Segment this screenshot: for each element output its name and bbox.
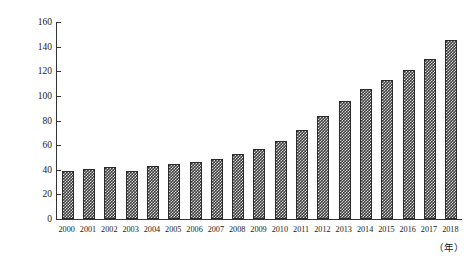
bar <box>339 101 351 219</box>
bar <box>403 70 415 219</box>
y-tick-label: 100 <box>23 90 57 102</box>
bar <box>317 116 329 219</box>
x-tick-label: 2018 <box>433 224 467 236</box>
y-tick-label: 40 <box>23 164 57 176</box>
bar <box>296 130 308 219</box>
y-tick-label: 140 <box>23 41 57 53</box>
bar-slot <box>377 22 398 219</box>
bar <box>147 166 159 219</box>
bar-slot <box>142 22 163 219</box>
bar <box>275 141 287 219</box>
y-tick-label: 20 <box>23 188 57 200</box>
bar <box>83 169 95 219</box>
bar-slot <box>441 22 462 219</box>
bar-slot <box>334 22 355 219</box>
bar <box>62 171 74 219</box>
y-tick-label: 160 <box>23 16 57 28</box>
y-tick-label: 80 <box>23 115 57 127</box>
y-tick-label: 60 <box>23 139 57 151</box>
bars-layer <box>57 22 462 219</box>
agricultural-output-bar-chart: 农业总产值（亿元） 020406080100120140160 20002001… <box>0 0 474 266</box>
bar-slot <box>185 22 206 219</box>
bar-slot <box>355 22 376 219</box>
bar-slot <box>313 22 334 219</box>
bar <box>360 89 372 220</box>
bar-slot <box>291 22 312 219</box>
bar-slot <box>249 22 270 219</box>
bar-slot <box>206 22 227 219</box>
bar-slot <box>419 22 440 219</box>
bar <box>168 164 180 219</box>
bar <box>381 80 393 219</box>
bar-slot <box>100 22 121 219</box>
x-axis-title: （年） <box>434 240 464 254</box>
bar <box>126 171 138 219</box>
bar <box>232 154 244 219</box>
bar-slot <box>121 22 142 219</box>
bar <box>424 59 436 219</box>
bar <box>104 167 116 219</box>
bar-slot <box>78 22 99 219</box>
y-tick-label: 120 <box>23 65 57 77</box>
bar-slot <box>57 22 78 219</box>
bar <box>190 162 202 219</box>
plot-area: 020406080100120140160 <box>56 22 462 220</box>
bar-slot <box>228 22 249 219</box>
bar-slot <box>270 22 291 219</box>
x-axis-tick-labels: 2000200120022003200420052006200720082009… <box>56 224 462 238</box>
bar-slot <box>164 22 185 219</box>
bar <box>445 40 457 219</box>
bar <box>253 149 265 219</box>
bar <box>211 159 223 219</box>
bar-slot <box>398 22 419 219</box>
